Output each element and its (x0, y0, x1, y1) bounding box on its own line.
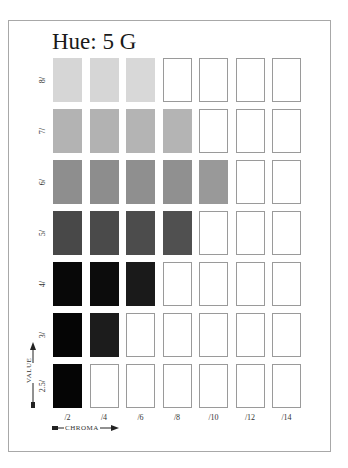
color-chip (236, 211, 265, 255)
chroma-column-label: /12 (236, 413, 265, 423)
chroma-column-label: /10 (199, 413, 228, 423)
chroma-axis-label: CHROMA (64, 423, 100, 433)
color-chip (272, 262, 301, 306)
color-chip (163, 58, 192, 102)
chroma-column-label: /2 (53, 413, 82, 423)
chroma-column-label: /4 (90, 413, 119, 423)
color-chip (272, 364, 301, 408)
color-chip (126, 313, 155, 357)
color-chip (90, 211, 119, 255)
color-chip (163, 211, 192, 255)
color-chip (53, 364, 82, 408)
color-chip (90, 160, 119, 204)
color-chip (272, 313, 301, 357)
color-chip (53, 160, 82, 204)
value-axis-label: VALUE (24, 363, 34, 383)
color-chip (272, 58, 301, 102)
color-chip (236, 58, 265, 102)
value-row-label: 5/ (38, 223, 48, 243)
chroma-column-label: /6 (126, 413, 155, 423)
color-chip (90, 313, 119, 357)
color-chip (199, 109, 228, 153)
color-chip (90, 364, 119, 408)
color-chip (163, 262, 192, 306)
color-chip (53, 109, 82, 153)
hue-title: Hue: 5 G (52, 28, 136, 56)
value-row-label: 4/ (38, 274, 48, 294)
color-chip (53, 211, 82, 255)
color-chip (126, 58, 155, 102)
value-row-label: 6/ (38, 172, 48, 192)
color-chip (126, 364, 155, 408)
color-chip (53, 262, 82, 306)
color-chip (236, 109, 265, 153)
color-chip (236, 160, 265, 204)
color-chip (199, 160, 228, 204)
color-chip (126, 211, 155, 255)
color-chip (199, 313, 228, 357)
color-chip (272, 109, 301, 153)
color-chip (163, 313, 192, 357)
color-chip (163, 109, 192, 153)
color-chip (90, 262, 119, 306)
chroma-column-label: /14 (272, 413, 301, 423)
value-row-label: 2.5/ (38, 376, 48, 396)
color-chip (236, 364, 265, 408)
color-chip (53, 313, 82, 357)
color-chip (199, 262, 228, 306)
color-chip (236, 262, 265, 306)
chroma-column-label: /8 (163, 413, 192, 423)
color-chip (199, 364, 228, 408)
color-chip (272, 160, 301, 204)
color-chip (199, 211, 228, 255)
value-row-label: 8/ (38, 70, 48, 90)
value-row-label: 3/ (38, 325, 48, 345)
color-chip (272, 211, 301, 255)
color-chip (126, 109, 155, 153)
value-row-label: 7/ (38, 121, 48, 141)
color-chip (163, 364, 192, 408)
color-chip (236, 313, 265, 357)
color-chip (163, 160, 192, 204)
color-chip (199, 58, 228, 102)
color-chip (126, 160, 155, 204)
color-chip (90, 109, 119, 153)
color-chip (90, 58, 119, 102)
color-chip (53, 58, 82, 102)
color-chip (126, 262, 155, 306)
